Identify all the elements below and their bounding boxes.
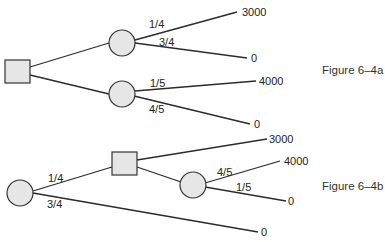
payoff-label: 3000 (242, 6, 266, 18)
chance-node-circle (109, 30, 135, 56)
decision-tree-diagram: 1/4 3/4 1/5 4/5 3000 0 4000 0 Figure 6–4… (0, 0, 385, 242)
probability-label: 1/5 (150, 77, 165, 89)
edge-outcome-0 (135, 43, 247, 58)
figure-6-4a: 1/4 3/4 1/5 4/5 3000 0 4000 0 Figure 6–4… (5, 6, 384, 130)
probability-label: 1/4 (48, 172, 63, 184)
probability-label: 1/5 (236, 181, 251, 193)
chance-node-circle (7, 180, 33, 206)
decision-node-square (112, 152, 137, 175)
edge-outcome-3000 (137, 139, 267, 160)
payoff-label: 0 (288, 195, 294, 207)
probability-label: 1/4 (149, 18, 164, 30)
decision-node-square (5, 60, 30, 83)
figure-caption: Figure 6–4b (322, 180, 383, 192)
payoff-label: 3000 (269, 133, 293, 145)
edge-decision-to-chance-1 (30, 43, 109, 67)
figure-caption: Figure 6–4a (322, 64, 384, 76)
payoff-label: 0 (251, 52, 257, 64)
probability-label: 4/5 (149, 103, 164, 115)
edge-decision-to-chance-2 (30, 75, 109, 94)
probability-label: 3/4 (159, 36, 174, 48)
probability-label: 4/5 (217, 166, 232, 178)
payoff-label: 0 (254, 118, 260, 130)
payoff-label: 4000 (259, 75, 283, 87)
probability-label: 3/4 (47, 198, 62, 210)
chance-node-circle (109, 81, 135, 107)
chance-node-circle (180, 172, 206, 198)
figure-6-4b: 1/4 3/4 4/5 1/5 3000 4000 0 0 Figure 6–4… (7, 133, 383, 238)
edge-chance-to-decision (33, 167, 112, 191)
payoff-label: 0 (261, 226, 267, 238)
edge-decision-to-chance (137, 167, 181, 182)
payoff-label: 4000 (284, 155, 308, 167)
edge-outcome-0 (33, 193, 258, 232)
